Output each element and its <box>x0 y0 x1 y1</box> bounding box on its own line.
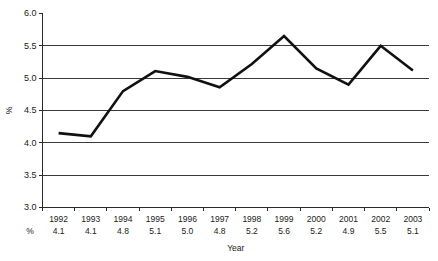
x-tick-label: 1995 <box>146 214 165 224</box>
y-tick-label: 4.0 <box>24 138 37 148</box>
value-label: 5.5 <box>375 226 387 236</box>
line-chart: 3.03.54.04.55.05.56.0 199219931994199519… <box>0 0 438 261</box>
value-label: 4.9 <box>343 226 355 236</box>
x-tick-label: 2000 <box>307 214 326 224</box>
x-tick-labels: 1992199319941995199619971998199920002001… <box>49 214 422 224</box>
x-tick-label: 1998 <box>242 214 261 224</box>
x-tick-label: 2003 <box>403 214 422 224</box>
value-label: 5.1 <box>149 226 161 236</box>
x-tick-label: 1999 <box>275 214 294 224</box>
x-tick-label: 1993 <box>81 214 100 224</box>
value-row-header: % <box>26 226 34 236</box>
value-label: 4.1 <box>85 226 97 236</box>
y-tick-label: 4.5 <box>24 105 37 115</box>
x-tick-label: 1994 <box>114 214 133 224</box>
value-label: 5.0 <box>182 226 194 236</box>
y-tick-label: 3.0 <box>24 202 37 212</box>
value-label: 4.8 <box>214 226 226 236</box>
y-tick-label: 3.5 <box>24 170 37 180</box>
x-tick-label: 1992 <box>49 214 68 224</box>
value-label: 5.2 <box>246 226 258 236</box>
x-axis <box>43 208 430 212</box>
y-tick-label: 5.0 <box>24 73 37 83</box>
x-tick-label: 2002 <box>371 214 390 224</box>
value-row-labels: 4.14.14.85.15.04.85.25.65.24.95.55.1 <box>53 226 419 236</box>
gridlines <box>43 46 430 175</box>
y-axis-title: % <box>4 106 14 114</box>
value-label: 4.1 <box>53 226 65 236</box>
y-tick-label: 5.5 <box>24 41 37 51</box>
x-tick-label: 1997 <box>210 214 229 224</box>
chart-container: 3.03.54.04.55.05.56.0 199219931994199519… <box>0 0 438 261</box>
data-series-line <box>59 36 413 136</box>
x-tick-label: 1996 <box>178 214 197 224</box>
value-label: 5.6 <box>278 226 290 236</box>
value-label: 5.2 <box>310 226 322 236</box>
y-axis <box>39 14 43 208</box>
value-label: 4.8 <box>117 226 129 236</box>
y-tick-labels: 3.03.54.04.55.05.56.0 <box>24 8 37 212</box>
x-tick-label: 2001 <box>339 214 358 224</box>
y-tick-label: 6.0 <box>24 8 37 18</box>
series-line <box>59 36 413 136</box>
x-axis-title: Year <box>227 243 244 253</box>
value-label: 5.1 <box>407 226 419 236</box>
